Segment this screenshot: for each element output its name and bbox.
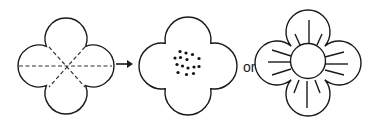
stamen-dot	[185, 58, 188, 61]
or-label: or	[243, 59, 256, 75]
rayed-flower	[255, 10, 361, 116]
stamen-dot	[176, 71, 179, 74]
stamen-dot	[192, 72, 195, 75]
right-arrow-icon	[116, 60, 133, 68]
stamen-dot	[191, 53, 194, 56]
stamen-dot	[197, 65, 200, 68]
folded-flower	[18, 18, 114, 114]
stamen-dot	[184, 51, 187, 54]
stamen-dot	[173, 56, 176, 59]
dotted-flower-outline	[139, 17, 237, 115]
stamen-dot	[185, 73, 188, 76]
arrow-head	[127, 60, 133, 68]
stamen-dot	[179, 56, 182, 59]
dotted-flower	[139, 17, 237, 115]
stamen-dot	[178, 50, 181, 53]
stamen-dot	[186, 66, 189, 69]
stamen-dot	[175, 63, 178, 66]
flower-diagram: or	[0, 0, 368, 126]
stamen-dot	[192, 65, 195, 68]
flower-center-circle	[291, 44, 326, 79]
stamen-dot	[197, 57, 200, 60]
stamen-dot	[181, 64, 184, 67]
